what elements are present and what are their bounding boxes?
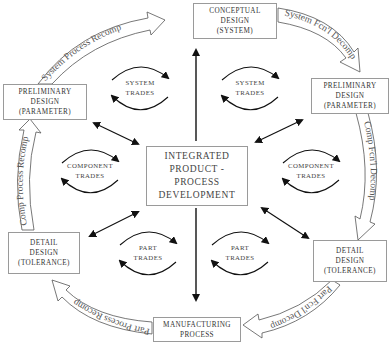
trade-line: PART xyxy=(210,243,270,253)
flow-arrow-system-process-recomp xyxy=(38,12,165,84)
node-preliminary-design-left: PRELIMINARY DESIGN (PARAMETER) xyxy=(3,84,87,120)
connector-to-detail-left xyxy=(90,212,138,236)
node-line: DESIGN xyxy=(336,91,365,101)
node-line: DESIGN xyxy=(30,248,59,258)
node-line: DETAIL xyxy=(30,238,58,248)
node-line: (TOLERANCE) xyxy=(324,266,376,276)
node-line: CONCEPTUAL xyxy=(209,6,261,16)
node-line: DESIGN xyxy=(221,16,250,26)
node-line: DESIGN xyxy=(336,256,365,266)
connector-to-detail-right xyxy=(262,208,308,238)
connector-to-prelim-left xyxy=(94,123,138,144)
trade-line: TRADES xyxy=(58,171,122,181)
node-line: (TOLERANCE) xyxy=(18,258,70,268)
node-line: (PARAMETER) xyxy=(324,101,376,111)
trade-line: COMPONENT xyxy=(279,161,343,171)
center-line: INTEGRATED xyxy=(164,150,229,163)
node-preliminary-design-right: PRELIMINARY DESIGN (PARAMETER) xyxy=(311,78,389,114)
trade-line: TRADES xyxy=(110,88,170,98)
node-integrated-product-process-development: INTEGRATED PRODUCT - PROCESS DEVELOPMENT xyxy=(146,146,248,206)
trade-line: SYSTEM xyxy=(220,78,280,88)
center-line: PROCESS xyxy=(174,176,219,189)
node-line: PRELIMINARY xyxy=(18,87,71,97)
trade-part-right: PART TRADES xyxy=(210,243,270,262)
trade-component-right: COMPONENT TRADES xyxy=(279,161,343,180)
node-line: PRELIMINARY xyxy=(323,81,376,91)
node-line: DETAIL xyxy=(336,246,364,256)
trade-system-right: SYSTEM TRADES xyxy=(220,78,280,97)
trade-line: COMPONENT xyxy=(58,161,122,171)
trade-component-left: COMPONENT TRADES xyxy=(58,161,122,180)
node-line: (SYSTEM) xyxy=(217,26,253,36)
trade-line: TRADES xyxy=(279,171,343,181)
trade-part-left: PART TRADES xyxy=(118,243,178,262)
center-line: PRODUCT - xyxy=(169,163,224,176)
node-line: MANUFACTURING xyxy=(163,320,231,330)
trade-line: SYSTEM xyxy=(110,78,170,88)
node-line: DESIGN xyxy=(31,97,60,107)
node-detail-design-left: DETAIL DESIGN (TOLERANCE) xyxy=(8,232,80,274)
trade-line: TRADES xyxy=(210,253,270,263)
node-manufacturing-process: MANUFACTURING PROCESS xyxy=(153,317,241,342)
connector-to-prelim-right xyxy=(256,120,302,142)
node-detail-design-right: DETAIL DESIGN (TOLERANCE) xyxy=(313,240,387,282)
trade-system-left: SYSTEM TRADES xyxy=(110,78,170,97)
trade-line: PART xyxy=(118,243,178,253)
label-part-process-recomp: Part Process Recomp xyxy=(71,297,151,337)
trade-line: TRADES xyxy=(118,253,178,263)
node-line: (PARAMETER) xyxy=(19,107,71,117)
label-system-process-recomp: System Process Recomp xyxy=(39,22,122,83)
center-line: DEVELOPMENT xyxy=(159,189,236,202)
label-part-fcnl-decomp: Part Fcn'l Decomp xyxy=(269,284,334,332)
node-conceptual-design: CONCEPTUAL DESIGN (SYSTEM) xyxy=(193,3,277,39)
node-line: PROCESS xyxy=(180,330,214,340)
trade-line: TRADES xyxy=(220,88,280,98)
